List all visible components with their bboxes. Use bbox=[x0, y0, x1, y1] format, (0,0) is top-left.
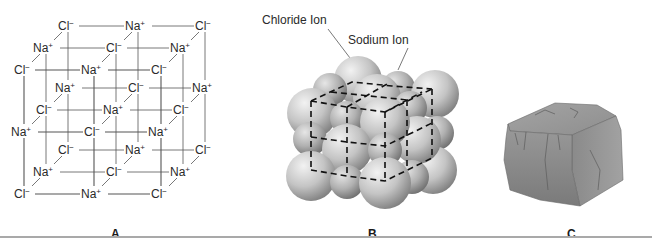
chloride-ion-callout: Chloride Ion bbox=[262, 13, 327, 27]
sodium-leader-line bbox=[398, 48, 408, 70]
sodium-ion-callout: Sodium Ion bbox=[348, 33, 409, 47]
panel-a-lattice-diagram: Cl−Na+Cl−Na+Cl−Na+Cl−Na+Cl−Na+Cl−Na+Cl−N… bbox=[0, 0, 232, 236]
panel-a-label: A. bbox=[111, 227, 123, 241]
space-filling-model bbox=[232, 0, 460, 220]
salt-crystal-illustration bbox=[460, 0, 652, 220]
chloride-leader-line bbox=[328, 29, 350, 58]
spheres bbox=[286, 56, 459, 209]
panel-b-space-filling-model: Chloride Ion Sodium Ion B. bbox=[232, 0, 460, 236]
nacl-lattice-diagram: Cl−Na+Cl−Na+Cl−Na+Cl−Na+Cl−Na+Cl−Na+Cl−N… bbox=[0, 0, 232, 220]
panel-c-salt-crystal: C. bbox=[460, 0, 652, 236]
panel-b-label: B. bbox=[368, 227, 380, 241]
panel-c-label: C. bbox=[567, 227, 579, 241]
bottom-divider bbox=[0, 236, 652, 238]
